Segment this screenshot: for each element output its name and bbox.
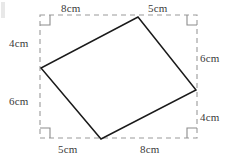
dimension-label-left-upper: 4cm xyxy=(9,38,29,49)
dimension-label-bottom-right: 8cm xyxy=(140,144,160,155)
quadrilateral-shape xyxy=(41,17,196,139)
bounding-box-rectangle xyxy=(40,15,197,138)
corner-marker-bottom-right xyxy=(187,128,197,138)
corner-marker-bottom-left xyxy=(40,128,50,138)
dimension-label-left-lower: 6cm xyxy=(9,96,29,107)
figure-canvas xyxy=(0,0,225,159)
dimension-label-right-lower: 4cm xyxy=(200,112,220,123)
dimension-label-bottom-left: 5cm xyxy=(58,144,78,155)
geometry-figure: 8cm 5cm 4cm 6cm 6cm 4cm 5cm 8cm xyxy=(0,0,225,159)
dimension-label-right-upper: 6cm xyxy=(200,53,220,64)
dimension-label-top-right: 5cm xyxy=(148,3,168,14)
corner-marker-top-right xyxy=(187,15,197,25)
dimension-label-top-left: 8cm xyxy=(61,3,81,14)
corner-marker-top-left xyxy=(40,15,50,25)
